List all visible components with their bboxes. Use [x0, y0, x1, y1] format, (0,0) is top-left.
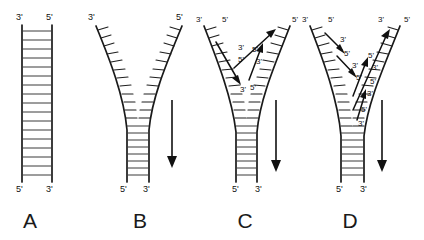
- dna-replication-figure: 3' 5' 5' 3' A: [0, 0, 424, 240]
- panel-c-top-left-end-label-3p: 3': [196, 15, 202, 24]
- panel-c-inner-label-3: 3': [240, 85, 246, 94]
- panel-b-bottom-right-end-label: 3': [143, 184, 150, 194]
- panel-d-bottom-left-end-label: 5': [336, 184, 343, 194]
- panel-d-inner-label-10: 3': [367, 89, 373, 98]
- panel-label-b: B: [133, 209, 147, 232]
- panel-c-bottom-left-end-label: 5': [232, 184, 239, 194]
- panel-c-top-left-end-label-5p: 5': [222, 15, 228, 24]
- panel-d-top-right-end-label-5p: 5': [404, 15, 410, 24]
- panel-d-inner-label-4: 5': [356, 73, 362, 82]
- panel-d-top-left-end-label-3p: 3': [302, 15, 308, 24]
- panel-a-bottom-left-end-label: 5': [16, 184, 23, 194]
- panel-c-inner-label-1: 3': [238, 43, 244, 52]
- panel-d-inner-label-8: 3': [372, 63, 378, 72]
- panel-b-bottom-left-end-label: 5': [120, 184, 127, 194]
- panel-c-inner-label-2: 5': [238, 55, 244, 64]
- panel-c-top-right-end-label-5p: 5': [292, 15, 298, 24]
- panel-c-inner-label-4: 5': [252, 45, 258, 54]
- panel-label-c: C: [237, 209, 252, 232]
- panel-c-inner-label-5: 3': [256, 57, 262, 66]
- panel-d-inner-label-6: 3': [358, 119, 364, 128]
- panel-d-inner-label-3: 3': [352, 61, 358, 70]
- panel-d-inner-label-9: 5': [370, 77, 376, 86]
- panel-c-inner-label-6: 5': [250, 83, 256, 92]
- panel-b-top-right-end-label: 5': [176, 12, 183, 22]
- panel-d-top-left-end-label-5p: 5': [328, 15, 334, 24]
- panel-a-bottom-right-end-label: 3': [46, 184, 53, 194]
- panel-c-bottom-right-end-label: 3': [255, 184, 262, 194]
- panel-d-inner-label-5: 5': [361, 105, 367, 114]
- panel-label-a: A: [23, 209, 37, 232]
- panel-d-inner-label-1: 3': [340, 35, 346, 44]
- panel-d-bottom-right-end-label: 3': [360, 184, 367, 194]
- panel-a-top-left-end-label: 3': [16, 12, 23, 22]
- panel-d-inner-label-7: 5': [368, 51, 374, 60]
- panel-a-top-right-end-label: 5': [46, 12, 53, 22]
- figure-canvas: 3' 5' 5' 3' A: [0, 0, 424, 240]
- panel-b-top-left-end-label: 3': [88, 12, 95, 22]
- panel-d-top-right-end-label-3p: 3': [378, 15, 384, 24]
- panel-label-d: D: [342, 209, 357, 232]
- panel-d-inner-label-2: 5': [344, 49, 350, 58]
